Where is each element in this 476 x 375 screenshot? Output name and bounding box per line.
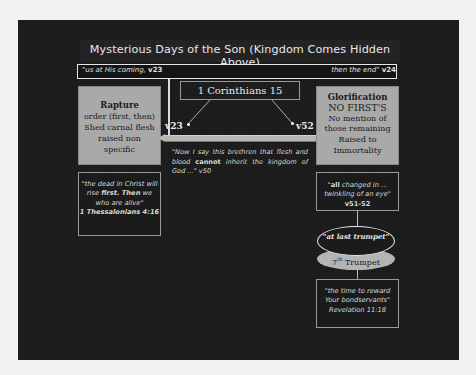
timeline-left-text: "us at His coming, v23 [82,66,162,74]
connector-line [357,270,358,279]
revelation-quote: "the time to reward Your bondservants" [317,287,398,306]
last-trumpet-oval: "at last trumpet" [317,226,395,256]
trumpet-text: Trumpet [342,258,380,267]
center-quote-bold: cannot [195,158,220,166]
timeline-right-ref: v24 [382,66,396,74]
glorification-line: No mention of [317,114,398,125]
rapture-line: Shed carnal flesh [79,122,160,133]
all-changed-ref: v51-52 [345,200,371,208]
thess-bold: first. Then [101,189,140,197]
v23-dot [187,123,190,126]
rapture-line: specific [79,144,160,155]
timeline-left-ref: v23 [148,66,162,74]
timeline-left-quote: "us at His coming, [82,66,148,74]
rapture-heading: Rapture [79,100,160,111]
center-quote: "Now I say this brethren that flesh and … [172,148,308,177]
glorification-subheading: NO FIRST'S [317,103,398,114]
rapture-box: Rapture order (first, then) Shed carnal … [78,86,161,165]
v52-dot [291,122,294,125]
glorification-line: Raised to [317,135,398,146]
all-changed-box: "all changed in ... twinkling of an eye"… [316,172,399,211]
left-arrow-bar [164,135,316,142]
rapture-line: order (first, then) [79,111,160,122]
glorification-line: Immortality [317,146,398,157]
all-changed-bold: all [331,181,340,189]
thess-ref: 1 Thessalonians 4:16 [79,208,160,217]
verse-label-v52: v52 [296,121,314,131]
corinthians-label: 1 Corinthians 15 [180,81,300,100]
glorification-line: those remaining [317,124,398,135]
timeline-right-quote: then the end" [331,66,382,74]
revelation-box: "the time to reward Your bondservants" R… [316,279,399,328]
glorification-box: Glorification NO FIRST'S No mention of t… [316,86,399,165]
thessalonians-box: "the dead in Christ will rise first. The… [78,172,161,236]
rapture-line: raised non [79,133,160,144]
revelation-ref: Revelation 11:18 [317,306,398,315]
timeline-right-text: then the end" v24 [331,66,396,74]
connector-line [357,211,358,226]
verse-label-v23: v23 [165,121,183,131]
